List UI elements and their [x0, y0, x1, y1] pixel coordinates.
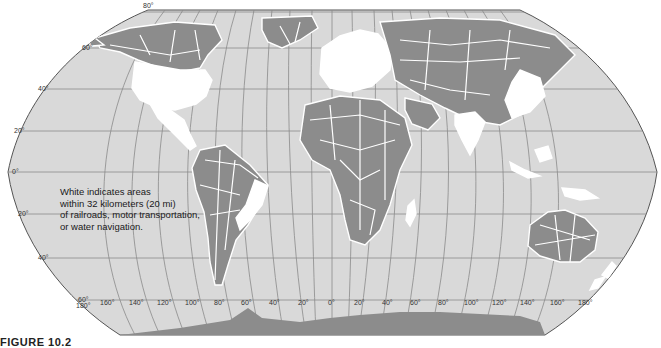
figure-caption: FIGURE 10.2: [0, 336, 72, 348]
svg-text:0°: 0°: [328, 299, 335, 306]
svg-text:180°: 180°: [76, 302, 91, 309]
legend-line-3: of railroads, motor transportation,: [60, 209, 200, 221]
lat-label-20n: 20°: [14, 127, 25, 134]
svg-text:80°: 80°: [214, 299, 225, 306]
legend-line-2: within 32 kilometers (20 mi): [60, 198, 200, 210]
lat-label-0: 0°: [12, 168, 19, 175]
lat-label-40s: 40°: [38, 254, 49, 261]
svg-text:40°: 40°: [382, 299, 393, 306]
svg-text:60°: 60°: [410, 299, 421, 306]
svg-text:80°: 80°: [438, 299, 449, 306]
svg-text:120°: 120°: [492, 299, 507, 306]
svg-text:100°: 100°: [464, 299, 479, 306]
lat-label-80n: 80°: [143, 2, 154, 9]
lat-label-40n: 40°: [38, 85, 49, 92]
svg-text:20°: 20°: [354, 299, 365, 306]
svg-text:120°: 120°: [157, 299, 172, 306]
svg-text:60°: 60°: [241, 299, 252, 306]
map-legend: White indicates areas within 32 kilomete…: [60, 186, 200, 232]
lat-label-20s: 20°: [18, 210, 29, 217]
legend-line-1: White indicates areas: [60, 186, 200, 198]
svg-text:140°: 140°: [520, 299, 535, 306]
svg-text:160°: 160°: [550, 299, 565, 306]
svg-text:100°: 100°: [185, 299, 200, 306]
svg-text:140°: 140°: [129, 299, 144, 306]
legend-line-4: or water navigation.: [60, 221, 200, 233]
svg-text:20°: 20°: [298, 299, 309, 306]
svg-text:40°: 40°: [269, 299, 280, 306]
lat-label-60n: 60°: [82, 44, 93, 51]
svg-text:160°: 160°: [100, 299, 115, 306]
svg-text:180°: 180°: [578, 299, 593, 306]
